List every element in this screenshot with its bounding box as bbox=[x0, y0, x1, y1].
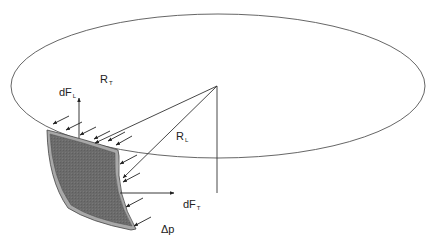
rt-label-main: R bbox=[100, 73, 108, 85]
pressure-delta-label: Δp bbox=[161, 224, 174, 235]
rl-label: RL bbox=[176, 131, 188, 143]
rt-label: RT bbox=[100, 74, 113, 86]
diagram-canvas bbox=[0, 0, 435, 245]
dp-label-text: Δp bbox=[161, 223, 174, 235]
wall-element bbox=[47, 130, 136, 230]
rt-label-sub: T bbox=[109, 80, 113, 86]
dft-label-sub: T bbox=[197, 205, 201, 211]
rt-radius-arrow bbox=[95, 86, 217, 143]
rl-label-main: R bbox=[176, 130, 184, 142]
dfl-label-main: dF bbox=[59, 86, 72, 98]
rl-radius-arrow bbox=[123, 86, 217, 178]
rl-label-sub: L bbox=[185, 137, 188, 143]
dft-label-main: dF bbox=[183, 198, 196, 210]
dft-label: dFT bbox=[183, 199, 201, 211]
dfl-label-sub: L bbox=[73, 93, 76, 99]
dfl-label: dFL bbox=[59, 87, 76, 99]
